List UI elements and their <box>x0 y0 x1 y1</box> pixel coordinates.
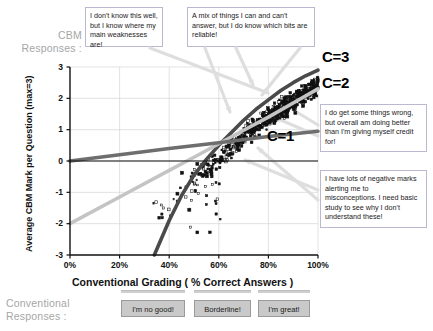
x-tick-100%: 100% <box>301 260 335 270</box>
curve-label-c1: C=1 <box>267 127 294 144</box>
button-cap-1 <box>121 290 185 293</box>
button-cap-3 <box>258 290 310 293</box>
conventional-responses-label: Conventional Responses : <box>6 297 102 322</box>
x-tick-20%: 20% <box>103 260 137 270</box>
x-tick-40%: 40% <box>152 260 186 270</box>
curve-label-c2: C=2 <box>322 74 349 91</box>
x-tick-60%: 60% <box>202 260 236 270</box>
x-tick-0%: 0% <box>53 260 87 270</box>
x-tick-80%: 80% <box>251 260 285 270</box>
response-button-borderline[interactable]: Borderline! <box>194 300 251 317</box>
button-cap-2 <box>194 290 251 293</box>
response-button-great[interactable]: I'm great! <box>258 300 310 317</box>
response-button-no-good[interactable]: I'm no good! <box>121 300 185 317</box>
x-axis-tick-labels: 0%20%40%60%80%100% <box>0 0 433 331</box>
curve-label-c3: C=3 <box>322 48 349 65</box>
